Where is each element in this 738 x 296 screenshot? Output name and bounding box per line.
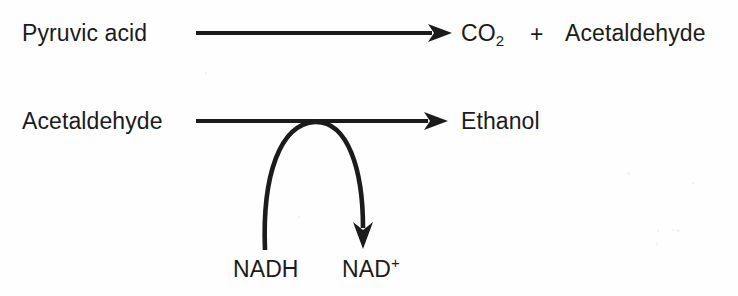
- nad-formula-text: NAD: [342, 256, 391, 282]
- scan-speckle: [677, 229, 680, 232]
- cofactor-nad-plus-label: NAD+: [342, 258, 400, 281]
- nad-plus-superscript: +: [391, 254, 400, 271]
- plus-operator-label: +: [530, 23, 543, 46]
- scan-speckle: [692, 182, 695, 184]
- product-carbon-dioxide-label: CO2: [461, 22, 504, 45]
- nadh-to-nad-curved-arrow-icon: [265, 122, 373, 250]
- reactant-acetaldehyde-label: Acetaldehyde: [22, 110, 163, 133]
- product-acetaldehyde-label: Acetaldehyde: [565, 22, 706, 45]
- reaction-1-arrow-icon: [196, 24, 452, 42]
- reactant-pyruvic-acid-label: Pyruvic acid: [22, 22, 147, 45]
- product-ethanol-label: Ethanol: [461, 110, 540, 133]
- scan-speckle: [656, 242, 658, 246]
- scan-speckle: [298, 216, 300, 218]
- co2-subscript: 2: [496, 32, 504, 49]
- co2-formula-text: CO: [461, 20, 496, 46]
- scan-speckle: [657, 230, 659, 232]
- cofactor-nadh-label: NADH: [233, 258, 299, 281]
- scan-speckle: [672, 229, 674, 231]
- fermentation-diagram: Pyruvic acid CO2 + Acetaldehyde Acetalde…: [0, 0, 738, 296]
- scan-speckle: [205, 72, 207, 74]
- scan-speckle: [627, 172, 630, 175]
